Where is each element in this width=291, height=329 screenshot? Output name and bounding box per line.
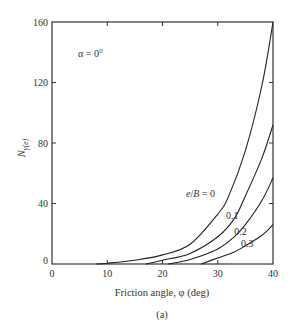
curve-label: e/B = 0: [186, 188, 215, 199]
chart: 01020304004080120160 e/B = 00.10.20.3 α …: [0, 0, 291, 329]
x-tick-label: 20: [158, 268, 168, 279]
y-tick-label: 80: [38, 138, 48, 149]
curve-label: 0.2: [234, 226, 247, 237]
y-tick-label: 120: [33, 77, 48, 88]
x-tick-label: 40: [268, 268, 278, 279]
panel-label: (a): [156, 309, 168, 321]
y-tick-label: 40: [38, 198, 48, 209]
x-tick-label: 0: [50, 268, 55, 279]
curve-labels: e/B = 00.10.20.3: [186, 188, 253, 249]
curve-label: 0.1: [226, 210, 239, 221]
curve-0.2: [168, 178, 273, 264]
alpha-annotation: α = 0°: [78, 48, 103, 59]
y-tick-label: 0: [43, 255, 48, 266]
svg-text:Nγ(e): Nγ(e): [16, 138, 30, 158]
x-axis-title: Friction angle, φ (deg): [115, 287, 210, 299]
y-tick-label: 160: [33, 17, 48, 28]
x-tick-label: 10: [102, 268, 112, 279]
x-tick-label: 30: [213, 268, 223, 279]
y-axis-title: Nγ(e): [16, 138, 30, 158]
curve-label: 0.3: [241, 238, 254, 249]
